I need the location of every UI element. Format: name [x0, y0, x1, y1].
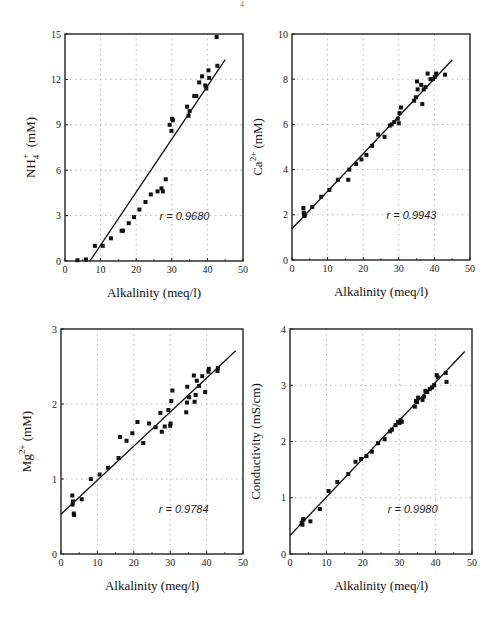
data-point — [187, 395, 191, 399]
data-point — [445, 380, 449, 384]
data-point — [93, 244, 97, 248]
data-point — [204, 86, 208, 90]
data-point — [143, 200, 147, 204]
y-tick-label: 4 — [281, 324, 286, 335]
y-tick-label: 2 — [283, 209, 288, 220]
x-tick-label: 10 — [96, 264, 106, 275]
data-point — [98, 473, 102, 477]
data-point — [347, 168, 351, 172]
data-point — [200, 374, 204, 378]
correlation-annotation: r = 0.9680 — [160, 210, 211, 222]
x-tick-label: 20 — [129, 557, 139, 568]
data-point — [147, 422, 151, 426]
data-point — [327, 188, 331, 192]
data-point — [364, 153, 368, 157]
data-point — [137, 208, 141, 212]
data-point — [359, 157, 363, 161]
data-point — [89, 477, 93, 481]
data-point — [169, 422, 173, 426]
x-axis-label: Alkalinity (meq/l) — [107, 285, 201, 300]
data-point — [303, 213, 307, 217]
data-point — [163, 425, 167, 429]
data-point — [168, 123, 172, 127]
data-point — [84, 257, 88, 261]
data-point — [310, 205, 314, 209]
correlation-annotation: r = 0.9784 — [159, 503, 209, 515]
data-point — [160, 430, 164, 434]
data-point — [101, 244, 105, 248]
data-point — [419, 83, 423, 87]
x-tick-label: 30 — [165, 557, 175, 568]
data-point — [132, 215, 136, 219]
data-point — [141, 441, 145, 445]
x-tick-label: 0 — [288, 557, 293, 568]
data-point — [354, 162, 358, 166]
data-point — [170, 389, 174, 393]
data-point — [194, 94, 198, 98]
data-point — [154, 425, 158, 429]
data-point — [300, 523, 304, 527]
data-point — [215, 35, 219, 39]
data-point — [200, 74, 204, 78]
y-tick-label: 3 — [281, 380, 286, 391]
data-point — [376, 441, 380, 445]
y-tick-label: 8 — [283, 74, 288, 85]
x-tick-label: 20 — [358, 557, 368, 568]
data-point — [383, 437, 387, 441]
y-axis-label: Conductivity (mS/cm) — [248, 383, 263, 500]
data-point — [197, 384, 201, 388]
data-point — [118, 435, 122, 439]
data-point — [432, 383, 436, 387]
chart-conductivity: 0102030405001234r = 0.9980Alkalinity (me… — [248, 324, 477, 594]
data-point — [346, 472, 350, 476]
data-point — [184, 410, 188, 414]
data-point — [383, 135, 387, 139]
y-tick-label: 4 — [283, 164, 288, 175]
x-tick-label: 50 — [465, 263, 475, 274]
data-point — [206, 68, 210, 72]
y-tick-label: 0 — [52, 549, 57, 560]
x-tick-label: 20 — [358, 263, 368, 274]
data-point — [216, 366, 220, 370]
data-point — [364, 454, 368, 458]
regression-line — [61, 351, 236, 515]
x-tick-label: 0 — [63, 264, 68, 275]
y-tick-label: 3 — [52, 324, 57, 335]
x-tick-label: 50 — [238, 557, 248, 568]
y-tick-label: 2 — [52, 399, 57, 410]
data-point — [397, 121, 401, 125]
y-axis-label: Ca2+ (mM) — [248, 118, 265, 176]
data-point — [117, 456, 121, 460]
data-point — [185, 401, 189, 405]
x-tick-label: 40 — [429, 263, 439, 274]
data-point — [207, 76, 211, 80]
data-point — [301, 517, 305, 521]
data-point — [436, 375, 440, 379]
data-point — [424, 85, 428, 89]
chart-ca: 010203040500246810r = 0.9943Alkalinity (… — [248, 29, 475, 300]
data-point — [169, 399, 173, 403]
data-point — [109, 236, 113, 240]
data-point — [370, 144, 374, 148]
y-tick-label: 0 — [283, 255, 288, 266]
y-tick-label: 6 — [283, 119, 288, 130]
data-point — [106, 466, 110, 470]
data-point — [434, 72, 438, 76]
data-point — [414, 95, 418, 99]
data-point — [398, 111, 402, 115]
data-point — [125, 439, 129, 443]
chart-nh4: 0102030405003691215r = 0.9680Alkalinity … — [20, 29, 248, 301]
x-tick-label: 20 — [131, 264, 141, 275]
data-point — [188, 109, 192, 113]
x-tick-label: 10 — [321, 557, 331, 568]
data-point — [187, 114, 191, 118]
data-point — [420, 102, 424, 106]
data-point — [422, 395, 426, 399]
y-axis-label: NH4+ (mM) — [20, 117, 41, 178]
data-point — [70, 494, 74, 498]
x-tick-label: 0 — [59, 557, 64, 568]
correlation-annotation: r = 0.9980 — [388, 503, 439, 515]
x-tick-label: 40 — [431, 557, 441, 568]
data-point — [399, 105, 403, 109]
y-tick-label: 1 — [281, 492, 286, 503]
